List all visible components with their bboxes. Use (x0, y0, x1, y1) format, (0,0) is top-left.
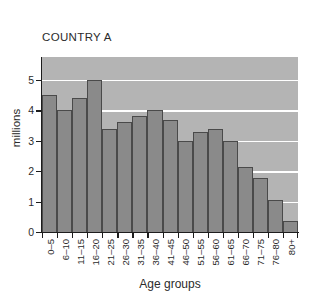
x-axis-tick (283, 233, 298, 238)
x-axis-tick (147, 233, 162, 238)
x-axis-label-cell: 6–10 (57, 239, 72, 273)
x-axis-tick (238, 233, 253, 238)
y-axis-tick-label: 2 (6, 165, 34, 177)
bar (178, 141, 193, 232)
x-axis-label-cell: 26–30 (117, 239, 132, 273)
x-axis-tick-label: 71–75 (255, 239, 266, 265)
bar (223, 141, 238, 232)
bar (193, 132, 208, 232)
x-axis-tick-label: 80+ (285, 239, 296, 255)
y-axis-tick (36, 110, 41, 111)
x-axis-tick-label: 0–5 (44, 239, 55, 255)
x-axis-label-cell: 16–20 (87, 239, 102, 273)
plot-area (42, 57, 298, 232)
x-axis-tick (193, 233, 208, 238)
x-axis-tick-label: 11–15 (74, 239, 85, 265)
x-axis-label-cell: 71–75 (253, 239, 268, 273)
y-axis-tick-label: 0 (6, 226, 34, 238)
x-axis-tick (268, 233, 283, 238)
bar (268, 200, 283, 232)
bar-chart-figure: COUNTRY A millions 012345 0–56–1011–1516… (0, 0, 311, 302)
x-axis-tick (57, 233, 72, 238)
x-axis-tick (163, 233, 178, 238)
x-axis-tick (87, 233, 102, 238)
x-axis-label-cell: 11–15 (72, 239, 87, 273)
y-axis-tick-label: 4 (6, 104, 34, 116)
bar-series (42, 57, 298, 232)
x-axis-tick-label: 6–10 (59, 239, 70, 260)
x-axis-tick-label: 76–80 (270, 239, 281, 265)
y-axis-tick-label: 3 (6, 135, 34, 147)
y-axis-tick (36, 141, 41, 142)
bar (238, 167, 253, 232)
x-axis-tick-label: 51–55 (195, 239, 206, 265)
x-axis-ticks (42, 233, 298, 238)
y-axis-tick (36, 80, 41, 81)
x-axis-tick-label: 31–35 (134, 239, 145, 265)
x-axis-label-cell: 51–55 (193, 239, 208, 273)
y-axis-tick (36, 232, 41, 233)
bar (117, 122, 132, 232)
x-axis-label-cell: 76–80 (268, 239, 283, 273)
x-axis-tick (42, 233, 57, 238)
x-axis-tick-label: 46–50 (180, 239, 191, 265)
x-axis-label-cell: 61–65 (223, 239, 238, 273)
y-axis-tick (36, 202, 41, 203)
x-axis-tick (223, 233, 238, 238)
bar (283, 221, 298, 232)
x-axis-label-cell: 0–5 (42, 239, 57, 273)
chart-title: COUNTRY A (42, 31, 112, 43)
y-axis-tick-labels: 012345 (0, 0, 34, 302)
x-axis-label-cell: 41–45 (163, 239, 178, 273)
bar (42, 95, 57, 232)
x-axis-label-cell: 46–50 (178, 239, 193, 273)
x-axis-tick-label: 36–40 (149, 239, 160, 265)
y-axis-tick (36, 171, 41, 172)
bar (87, 80, 102, 232)
x-axis-tick (132, 233, 147, 238)
bar (208, 129, 223, 232)
x-axis-label-cell: 31–35 (132, 239, 147, 273)
x-axis-tick-label: 56–60 (210, 239, 221, 265)
x-axis-tick (208, 233, 223, 238)
bar (253, 178, 268, 232)
x-axis-tick-label: 16–20 (89, 239, 100, 265)
x-axis-label-cell: 56–60 (208, 239, 223, 273)
y-axis-line (41, 57, 42, 233)
bar (147, 110, 162, 232)
x-axis-label-cell: 66–70 (238, 239, 253, 273)
bar (72, 98, 87, 232)
bar (57, 110, 72, 232)
x-axis-label-cell: 21–25 (102, 239, 117, 273)
bar (102, 129, 117, 232)
x-axis-tick-labels: 0–56–1011–1516–2021–2526–3031–3536–4041–… (42, 239, 298, 273)
x-axis-tick-label: 21–25 (104, 239, 115, 265)
x-axis-tick-label: 61–65 (225, 239, 236, 265)
x-axis-tick-label: 66–70 (240, 239, 251, 265)
x-axis-label-cell: 80+ (283, 239, 298, 273)
x-axis-tick (72, 233, 87, 238)
x-axis-tick-label: 26–30 (119, 239, 130, 265)
x-axis-tick (178, 233, 193, 238)
x-axis-tick-label: 41–45 (165, 239, 176, 265)
x-axis-tick (117, 233, 132, 238)
bar (163, 120, 178, 232)
y-axis-tick-label: 1 (6, 196, 34, 208)
x-axis-tick (102, 233, 117, 238)
x-axis-label-cell: 36–40 (147, 239, 162, 273)
bar (132, 116, 147, 232)
x-axis-title: Age groups (42, 277, 298, 291)
x-axis-tick (253, 233, 268, 238)
y-axis-tick-label: 5 (6, 74, 34, 86)
